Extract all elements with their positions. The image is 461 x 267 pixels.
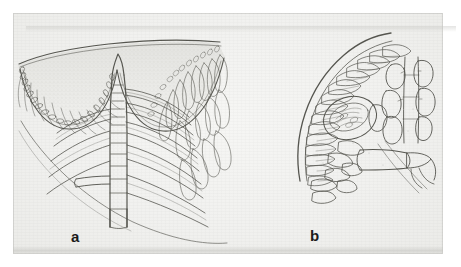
figure-b-granular-body [318, 90, 382, 147]
figure-b-outer-wall [298, 33, 392, 181]
scan-top-shadow [26, 26, 456, 32]
figure-b-palisade-cells [306, 45, 411, 186]
illustration-plate: a b [0, 0, 461, 267]
figure-label-a: a [71, 229, 79, 244]
scan-bottom-shadow [13, 246, 443, 254]
figure-b-support-line [378, 141, 427, 193]
figure-label-b: b [310, 228, 319, 243]
figure-b-drawing [13, 13, 443, 254]
figure-b-basal-cells [311, 141, 364, 204]
scanned-paper-area [13, 13, 443, 254]
